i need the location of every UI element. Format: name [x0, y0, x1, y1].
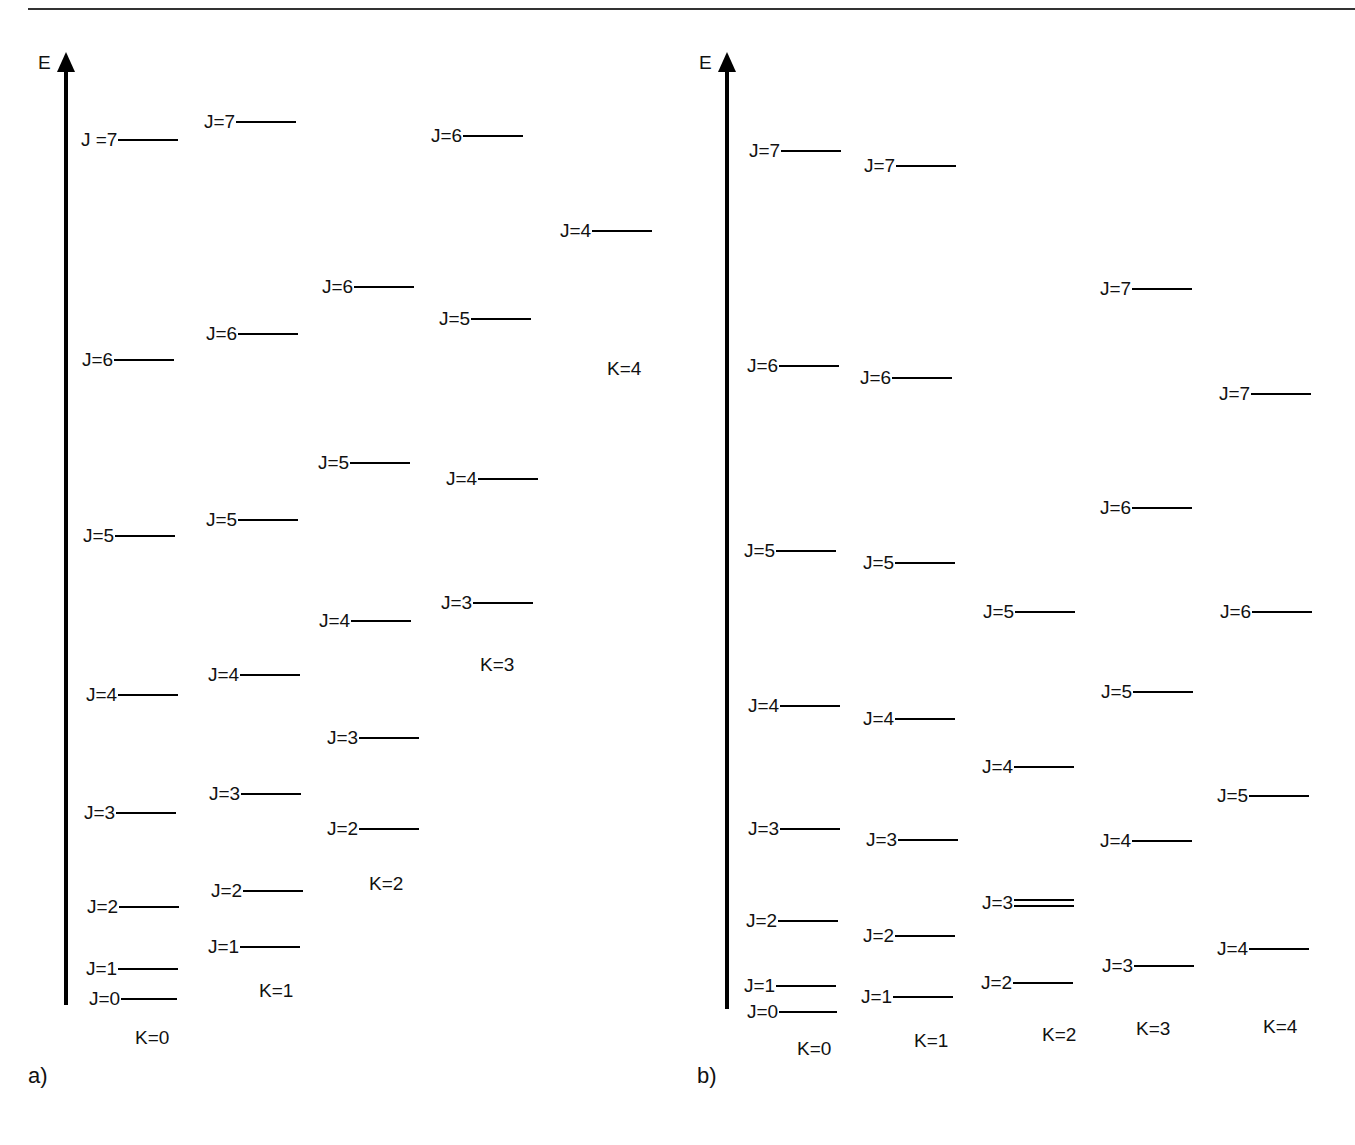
energy-level: J=6 [1100, 496, 1192, 520]
level-label: J=3 [748, 818, 779, 840]
level-line [1133, 691, 1193, 693]
level-label: J=4 [1100, 830, 1131, 852]
level-label: J=6 [1100, 497, 1131, 519]
energy-level: J=0 [747, 1000, 837, 1024]
level-label: J=4 [863, 708, 894, 730]
level-label: J=5 [983, 601, 1014, 623]
level-label: J=3 [866, 829, 897, 851]
energy-axis [725, 66, 729, 1009]
level-line [1132, 840, 1192, 842]
level-line [1132, 288, 1192, 290]
energy-level: J=4 [748, 694, 840, 718]
level-line [780, 828, 840, 830]
energy-level: J=1 [744, 974, 836, 998]
energy-level: J=4 [1100, 829, 1192, 853]
level-line [1134, 965, 1194, 967]
level-line [779, 365, 839, 367]
level-line [778, 920, 838, 922]
energy-level: J=7 [864, 154, 956, 178]
level-line [1249, 795, 1309, 797]
level-label: J=4 [748, 695, 779, 717]
level-line [896, 165, 956, 167]
level-label: J=7 [1100, 278, 1131, 300]
level-label: J=3 [982, 892, 1013, 914]
level-line [1014, 766, 1074, 768]
level-label: J=1 [744, 975, 775, 997]
level-line [895, 935, 955, 937]
level-line [1252, 611, 1312, 613]
energy-level: J=2 [863, 924, 955, 948]
energy-level: J=4 [1217, 937, 1309, 961]
energy-level: J=4 [982, 755, 1074, 779]
level-label: J=5 [1217, 785, 1248, 807]
level-label: J=3 [1102, 955, 1133, 977]
energy-level: J=7 [1219, 382, 1311, 406]
energy-level: J=7 [1100, 277, 1192, 301]
energy-level: J=3 [748, 817, 840, 841]
level-label: J=4 [982, 756, 1013, 778]
level-label: J=1 [861, 986, 892, 1008]
level-line [895, 562, 955, 564]
level-line [1251, 393, 1311, 395]
panel-tag: a) [28, 1063, 48, 1089]
level-label: J=2 [981, 972, 1012, 994]
degenerate-level-line [1014, 905, 1074, 907]
level-line [1015, 611, 1075, 613]
panel-b: EJ=0J=1J=2J=3J=4J=5J=6J=7J=1J=2J=3J=4J=5… [0, 0, 1355, 1145]
energy-level: J=3 [982, 891, 1074, 915]
k-column-label: K=1 [914, 1030, 948, 1052]
energy-level: J=5 [1101, 680, 1193, 704]
energy-level: J=4 [863, 707, 955, 731]
level-label: J=0 [747, 1001, 778, 1023]
energy-level: J=5 [744, 539, 836, 563]
level-line [1249, 948, 1309, 950]
level-label: J=2 [746, 910, 777, 932]
energy-level: J=5 [983, 600, 1075, 624]
level-line [898, 839, 958, 841]
panel-tag: b) [697, 1063, 717, 1089]
level-label: J=5 [744, 540, 775, 562]
energy-level: J=2 [746, 909, 838, 933]
energy-level: J=3 [866, 828, 958, 852]
level-label: J=7 [1219, 383, 1250, 405]
level-label: J=7 [749, 140, 780, 162]
energy-level: J=6 [860, 366, 952, 390]
energy-level: J=3 [1102, 954, 1194, 978]
level-line [781, 150, 841, 152]
figure-caption-fragment [28, 1137, 1355, 1145]
level-line [892, 377, 952, 379]
axis-label-energy: E [699, 53, 712, 73]
level-label: J=5 [1101, 681, 1132, 703]
level-line [893, 996, 953, 998]
level-line [895, 718, 955, 720]
energy-level: J=6 [1220, 600, 1312, 624]
level-line [779, 1011, 837, 1013]
energy-level: J=1 [861, 985, 953, 1009]
energy-level: J=5 [1217, 784, 1309, 808]
energy-level: J=7 [749, 139, 841, 163]
level-label: J=6 [860, 367, 891, 389]
energy-level: J=6 [747, 354, 839, 378]
level-label: J=6 [1220, 601, 1251, 623]
level-line [776, 550, 836, 552]
k-column-label: K=2 [1042, 1024, 1076, 1046]
level-line [776, 985, 836, 987]
level-label: J=6 [747, 355, 778, 377]
level-line [1132, 507, 1192, 509]
axis-arrow-icon [718, 52, 736, 72]
level-label: J=2 [863, 925, 894, 947]
level-line [1013, 982, 1073, 984]
level-line [780, 705, 840, 707]
k-column-label: K=3 [1136, 1018, 1170, 1040]
level-label: J=7 [864, 155, 895, 177]
energy-level: J=5 [863, 551, 955, 575]
level-label: J=5 [863, 552, 894, 574]
level-label: J=4 [1217, 938, 1248, 960]
energy-level: J=2 [981, 971, 1073, 995]
k-column-label: K=0 [797, 1038, 831, 1060]
k-column-label: K=4 [1263, 1016, 1297, 1038]
